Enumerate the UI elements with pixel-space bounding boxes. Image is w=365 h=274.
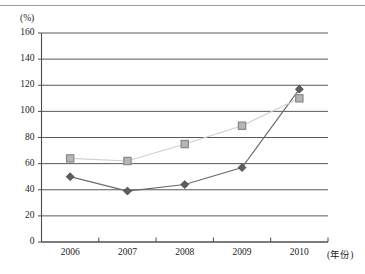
marker-diamond-2008 — [181, 181, 189, 189]
y-tick-label-40: 40 — [9, 184, 35, 194]
marker-square-2006 — [67, 155, 74, 162]
y-tick-label-160: 160 — [9, 27, 35, 37]
line-series-square — [70, 98, 299, 161]
marker-diamond-2007 — [124, 187, 132, 195]
marker-square-2010 — [296, 95, 303, 102]
x-tick-label-2010: 2010 — [276, 247, 322, 257]
y-tick-label-20: 20 — [9, 210, 35, 220]
y-tick-label-60: 60 — [9, 158, 35, 168]
marker-diamond-2006 — [66, 173, 74, 181]
y-tick-label-140: 140 — [9, 53, 35, 63]
marker-square-2008 — [181, 140, 188, 147]
x-tick-label-2006: 2006 — [47, 247, 93, 257]
line-chart: (%) (年份) 0204060801001201401602006200720… — [0, 0, 365, 274]
y-tick-label-80: 80 — [9, 132, 35, 142]
y-tick-label-120: 120 — [9, 79, 35, 89]
x-tick-label-2009: 2009 — [219, 247, 265, 257]
x-tick-label-2007: 2007 — [104, 247, 150, 257]
plot-area — [0, 0, 365, 274]
y-tick-label-100: 100 — [9, 105, 35, 115]
marker-square-2009 — [238, 122, 245, 129]
y-tick-label-0: 0 — [9, 236, 35, 246]
x-tick-label-2008: 2008 — [162, 247, 208, 257]
marker-square-2007 — [124, 157, 131, 164]
